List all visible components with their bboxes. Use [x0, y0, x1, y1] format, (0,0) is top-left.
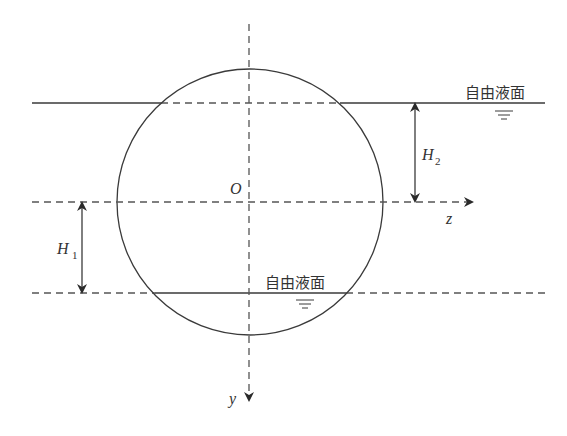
origin-label: O: [230, 180, 242, 197]
top-free-surface-label: 自由液面: [465, 84, 525, 102]
top-water-level-symbol: [495, 111, 513, 119]
bottom-water-level-symbol: [296, 300, 314, 308]
h2-label: H: [421, 146, 435, 163]
h2-subscript: 2: [435, 155, 441, 167]
z-axis-label: z: [445, 210, 453, 227]
circle-free-surface-diagram: 自由液面 自由液面 O z y H 2 H 1: [0, 0, 567, 436]
y-axis-label: y: [227, 390, 237, 408]
bottom-free-surface-label: 自由液面: [265, 274, 325, 292]
h1-subscript: 1: [72, 249, 78, 261]
h1-label: H: [56, 240, 70, 257]
